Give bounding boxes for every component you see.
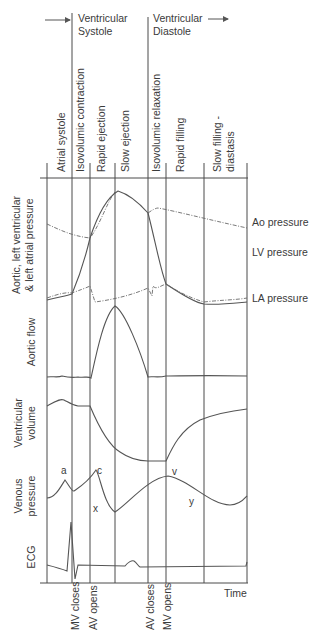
phase-rapid-ejection: Rapid ejection (95, 105, 107, 172)
ecg-curve (47, 522, 247, 579)
row-labels: Aortic, left ventricular & left atrial p… (10, 195, 37, 568)
phase-atrial-systole: Atrial systole (55, 112, 67, 172)
diastole-label-line2: Diastole (153, 25, 191, 37)
event-mv-closes: MV closes (69, 582, 81, 630)
row-label-volume-1: Ventricular (12, 398, 24, 448)
phase-slow-filling: Slow filling - (211, 115, 223, 172)
la-pressure-curve (47, 284, 247, 302)
systole-label-line1: Ventricular (78, 12, 128, 24)
wave-v-label: v (172, 466, 177, 477)
legend-lv-pressure: LV pressure (252, 246, 308, 258)
row-label-pressure-2: & left atrial pressure (23, 198, 35, 292)
event-av-opens: AV opens (87, 585, 99, 630)
phase-diastasis: diastasis (224, 131, 236, 172)
time-axis-label: Time (224, 587, 247, 599)
lv-pressure-curve (47, 191, 247, 304)
wave-c-label: c (97, 465, 102, 476)
ao-pressure-curve (47, 192, 247, 238)
row-label-pressure-1: Aortic, left ventricular (10, 195, 22, 294)
row-label-venous-2: pressure (25, 475, 37, 516)
event-mv-opens: MV opens (161, 583, 173, 630)
phase-rapid-filling: Rapid filling (174, 118, 186, 172)
systole-label-line2: Systole (78, 25, 113, 37)
wave-x-label: x (93, 503, 98, 514)
phase-labels: Atrial systole Isovolumic contraction Ra… (55, 68, 236, 172)
aortic-flow-curve (47, 306, 247, 378)
row-label-volume-2: volume (25, 406, 37, 440)
row-label-ecg: ECG (25, 546, 37, 569)
valve-event-labels: MV closes AV opens AV closes MV opens (69, 582, 173, 630)
row-label-aortic-flow: Aortic flow (25, 317, 37, 366)
diastole-label-line1: Ventricular (153, 12, 203, 24)
legend-ao-pressure: Ao pressure (252, 216, 309, 228)
ventricular-volume-curve (47, 399, 247, 461)
row-label-venous-1: Venous (12, 478, 24, 513)
phase-isovolumic-relaxation: Isovolumic relaxation (150, 74, 162, 172)
cardiac-cycle-diagram: Ventricular Systole Ventricular Diastole… (0, 0, 315, 636)
legend-la-pressure: LA pressure (252, 292, 308, 304)
wave-a-label: a (61, 465, 67, 476)
event-av-closes: AV closes (144, 584, 156, 630)
phase-isovolumic-contraction: Isovolumic contraction (74, 68, 86, 172)
wave-y-label: y (189, 496, 194, 507)
phase-slow-ejection: Slow ejection (119, 110, 131, 172)
venous-pressure-curve (47, 470, 247, 512)
